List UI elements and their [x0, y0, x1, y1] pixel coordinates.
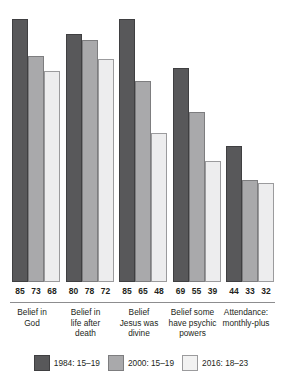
bar-group-values: 856548 — [119, 285, 169, 298]
category-label-line: divine — [111, 328, 167, 339]
category-label: BeliefJesus wasdivine — [111, 307, 167, 339]
bar-group-values: 443332 — [226, 285, 276, 298]
category-label-line: Belief some — [165, 307, 221, 318]
category-label-line: Belief — [111, 307, 167, 318]
legend-item-label: 2000: 15–19 — [128, 358, 174, 368]
category-label: Belief inlife afterdeath — [58, 307, 114, 339]
bar-value-label: 32 — [258, 286, 274, 297]
bar-group — [119, 14, 169, 282]
bar-value-label: 44 — [226, 286, 242, 297]
bar[interactable] — [28, 56, 44, 282]
category-label-line: Belief in — [4, 307, 60, 318]
bar-value-label: 72 — [98, 286, 114, 297]
bar-group — [226, 14, 276, 282]
category-axis-rule — [10, 302, 275, 303]
category-label-line: God — [4, 318, 60, 329]
category-label-line: powers — [165, 328, 221, 339]
category-label-line: Attendance: — [218, 307, 274, 318]
bar-group-bars — [12, 14, 62, 282]
bar[interactable] — [173, 68, 189, 282]
bar-group-values: 807872 — [66, 285, 116, 298]
category-label-row: Belief inGodBelief inlife afterdeathBeli… — [7, 307, 277, 343]
legend-item[interactable]: 2000: 15–19 — [108, 355, 174, 371]
bar[interactable] — [226, 146, 242, 282]
bar-group-bars — [173, 14, 223, 282]
grouped-bar-chart: 857368807872856548695539443332 Belief in… — [0, 0, 282, 386]
bar[interactable] — [98, 59, 114, 282]
bar-value-label: 78 — [82, 286, 98, 297]
bar-group — [173, 14, 223, 282]
bar-group — [12, 14, 62, 282]
bar[interactable] — [189, 112, 205, 282]
bar-value-label: 85 — [12, 286, 28, 297]
bar-group-bars — [119, 14, 169, 282]
bar[interactable] — [119, 19, 135, 282]
bar[interactable] — [151, 133, 167, 282]
bar-group-bars — [226, 14, 276, 282]
bar-group — [66, 14, 116, 282]
bar[interactable] — [242, 180, 258, 282]
bar[interactable] — [82, 40, 98, 282]
bar-value-label: 33 — [242, 286, 258, 297]
plot-area — [12, 14, 274, 282]
bar[interactable] — [44, 71, 60, 282]
legend-item-label: 2016: 18–23 — [202, 358, 248, 368]
bar-group-values: 695539 — [173, 285, 223, 298]
chart-legend: 1984: 15–192000: 15–192016: 18–23 — [0, 352, 282, 374]
bar-group-bars — [66, 14, 116, 282]
category-label-line: monthly-plus — [218, 318, 274, 329]
category-label-line: life after — [58, 318, 114, 329]
bar[interactable] — [258, 183, 274, 282]
category-label-line: Belief in — [58, 307, 114, 318]
bar[interactable] — [135, 81, 151, 282]
bar-value-label: 85 — [119, 286, 135, 297]
bar-value-label: 69 — [173, 286, 189, 297]
legend-item-label: 1984: 15–19 — [54, 358, 100, 368]
dark-gray-swatch — [34, 355, 50, 371]
bar-value-label: 65 — [135, 286, 151, 297]
legend-item[interactable]: 1984: 15–19 — [34, 355, 100, 371]
legend-item[interactable]: 2016: 18–23 — [182, 355, 248, 371]
light-gray-swatch — [182, 355, 198, 371]
bar[interactable] — [12, 19, 28, 282]
category-label-line: death — [58, 328, 114, 339]
bar-value-label: 39 — [205, 286, 221, 297]
category-label: Belief somehave psychicpowers — [165, 307, 221, 339]
bar[interactable] — [205, 161, 221, 282]
data-label-row: 857368807872856548695539443332 — [12, 285, 274, 298]
bar-group-values: 857368 — [12, 285, 62, 298]
category-label: Belief inGod — [4, 307, 60, 328]
category-label-line: Jesus was — [111, 318, 167, 329]
category-label: Attendance:monthly-plus — [218, 307, 274, 328]
medium-gray-swatch — [108, 355, 124, 371]
bar-value-label: 55 — [189, 286, 205, 297]
bar-value-label: 48 — [151, 286, 167, 297]
bar-value-label: 73 — [28, 286, 44, 297]
bar[interactable] — [66, 34, 82, 282]
bar-value-label: 68 — [44, 286, 60, 297]
bar-value-label: 80 — [66, 286, 82, 297]
category-label-line: have psychic — [165, 318, 221, 329]
